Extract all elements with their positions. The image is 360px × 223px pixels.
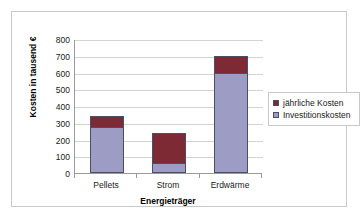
y-tick-label: 200 [30,137,70,146]
legend-item-annual-costs[interactable]: jährliche Kosten [273,97,356,109]
bar-erdwaerme[interactable] [214,56,248,173]
y-tick-label: 600 [30,70,70,79]
gridline [75,40,263,41]
y-tick-label: 100 [30,153,70,162]
legend-item-investment-costs[interactable]: Investitionskosten [273,109,356,121]
bar-segment-investment-costs[interactable] [90,127,124,173]
y-tick-label: 700 [30,53,70,62]
x-tick-label-pellets: Pellets [71,180,141,190]
x-tick-label-erdwaerme: Erdwärme [195,180,265,190]
y-tick-label: 0 [30,170,70,179]
y-tick-label: 300 [30,120,70,129]
legend-swatch-icon [273,100,279,106]
x-tick-mark [74,174,75,178]
bar-segment-investment-costs[interactable] [152,163,186,173]
legend-label: Investitionskosten [283,110,351,120]
y-axis-tick-labels: 800 700 600 500 400 300 200 100 0 [26,40,70,174]
bar-segment-annual-costs[interactable] [214,56,248,74]
bar-segment-investment-costs[interactable] [214,73,248,173]
bar-segment-annual-costs[interactable] [90,116,124,127]
y-tick-label: 400 [30,103,70,112]
chart-legend: jährliche Kosten Investitionskosten [268,92,360,126]
x-tick-mark [261,174,262,178]
x-axis-title: Energieträger [74,196,262,206]
chart-container: Kosten in tausend € 800 700 600 500 400 … [0,0,360,223]
y-tick-label: 500 [30,86,70,95]
y-tick-label: 800 [30,36,70,45]
bar-strom[interactable] [152,133,186,173]
legend-swatch-icon [273,112,279,118]
x-tick-mark [199,174,200,178]
legend-label: jährliche Kosten [283,98,343,108]
chart-frame: Kosten in tausend € 800 700 600 500 400 … [11,11,347,207]
plot-area [74,40,262,174]
bar-pellets[interactable] [90,116,124,173]
x-tick-label-strom: Strom [133,180,203,190]
bar-segment-annual-costs[interactable] [152,133,186,163]
x-tick-mark [136,174,137,178]
